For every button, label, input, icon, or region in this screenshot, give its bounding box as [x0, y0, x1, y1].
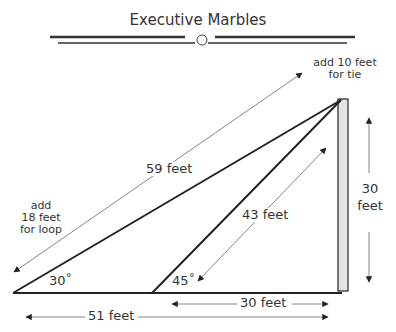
loop-note: add 18 feet for loop [16, 200, 66, 236]
rope-long [13, 100, 341, 293]
pole [338, 99, 348, 291]
title-ornament [50, 35, 355, 45]
angle-long-label: 30˚ [49, 274, 72, 288]
angle-short-label: 45˚ [172, 274, 195, 288]
pole-height-line1: 30 [356, 180, 384, 197]
pole-height-line2: feet [356, 197, 384, 214]
loop-note-line3: for loop [16, 224, 66, 236]
page-title: Executive Marbles [0, 13, 396, 27]
rope-short [152, 100, 341, 293]
base-long-label: 51 feet [88, 309, 134, 323]
pole-height-label: 30 feet [356, 180, 384, 214]
base-short-label: 30 feet [240, 296, 286, 310]
short-rope-label: 43 feet [242, 208, 288, 222]
tie-note-line2: for tie [300, 69, 390, 81]
long-rope-label: 59 feet [146, 162, 192, 176]
tie-note: add 10 feet for tie [300, 57, 390, 81]
